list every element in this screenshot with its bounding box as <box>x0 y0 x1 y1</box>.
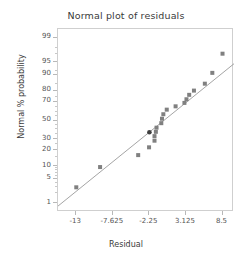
x-axis-tick-label: -13 <box>55 218 95 225</box>
x-axis-tick-label: -2.25 <box>128 218 168 225</box>
data-point[interactable] <box>160 117 164 121</box>
data-point[interactable] <box>153 134 157 138</box>
data-point[interactable] <box>147 130 152 135</box>
y-axis-tick-label: 10 <box>25 162 51 169</box>
data-point[interactable] <box>203 82 207 86</box>
data-point[interactable] <box>184 97 188 101</box>
data-point[interactable] <box>165 108 169 112</box>
normal-probability-plot-window: Normal plot of residuals Normal % probab… <box>0 0 252 262</box>
data-point[interactable] <box>155 126 159 130</box>
plot-area <box>57 28 233 211</box>
y-axis-tick-label: 50 <box>25 116 51 123</box>
data-point[interactable] <box>182 101 186 105</box>
x-axis-tick-label: 8.5 <box>202 218 242 225</box>
y-axis-tick-label: 5 <box>25 174 51 181</box>
data-point[interactable] <box>187 93 191 97</box>
plot-canvas <box>58 29 234 212</box>
data-point[interactable] <box>161 112 165 116</box>
y-axis-tick-label: 1 <box>25 199 51 206</box>
y-axis-tick-label: 95 <box>25 58 51 65</box>
data-point[interactable] <box>221 52 225 56</box>
data-point[interactable] <box>136 153 140 157</box>
data-point[interactable] <box>153 139 157 143</box>
y-axis-tick-label: 80 <box>25 86 51 93</box>
chart-title: Normal plot of residuals <box>0 10 252 21</box>
x-axis-title: Residual <box>0 240 252 249</box>
data-point[interactable] <box>159 121 163 125</box>
data-point[interactable] <box>210 71 214 75</box>
y-axis-tick-label: 20 <box>25 146 51 153</box>
y-axis-tick-label: 99 <box>25 33 51 40</box>
data-point[interactable] <box>174 104 178 108</box>
y-axis-tick-label: 90 <box>25 70 51 77</box>
data-point-group <box>74 52 224 190</box>
data-point[interactable] <box>154 130 158 134</box>
x-axis-tick-label: -7.625 <box>92 218 132 225</box>
y-axis-tick-label: 70 <box>25 97 51 104</box>
data-point[interactable] <box>98 165 102 169</box>
data-point[interactable] <box>74 185 78 189</box>
data-point[interactable] <box>147 145 151 149</box>
normal-reference-line <box>58 64 234 206</box>
x-axis-tick-label: 3.125 <box>165 218 205 225</box>
y-axis-tick-label: 30 <box>25 135 51 142</box>
data-point[interactable] <box>192 89 196 93</box>
